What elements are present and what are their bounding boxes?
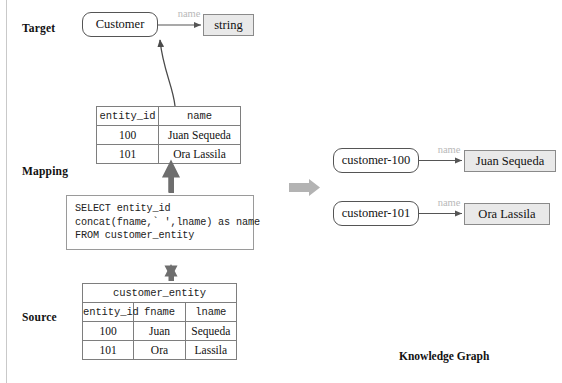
source-cell-lname: Sequeda [185, 322, 236, 341]
table-row: 101 Ora Lassila [97, 145, 241, 164]
sql-to-mapping-arrow [165, 163, 178, 193]
sql-line: concat(fname,` ',lname) as name [75, 216, 245, 230]
transform-block-arrow [289, 179, 320, 196]
left-margin-rule [6, 0, 7, 383]
mapping-cell-entity-id: 100 [97, 126, 159, 145]
source-table: customer_entity entity_id fname lname 10… [82, 283, 237, 360]
source-table-title: customer_entity [83, 284, 237, 303]
mapping-to-target-curve [160, 40, 175, 106]
source-header-fname: fname [134, 303, 185, 322]
mapping-header-name: name [159, 107, 241, 126]
table-row: 100 Juan Sequeda [83, 322, 237, 341]
kg-caption: Knowledge Graph [399, 350, 489, 362]
source-cell-entity-id: 100 [83, 322, 134, 341]
kg-subject-node-1[interactable]: customer-100 [333, 148, 419, 173]
section-label-mapping: Mapping [22, 165, 68, 177]
target-class-node[interactable]: Customer [82, 12, 158, 37]
mapping-cell-name: Ora Lassila [159, 145, 241, 164]
sql-mapping-box[interactable]: SELECT entity_id concat(fname,` ',lname)… [66, 195, 254, 250]
source-cell-entity-id: 101 [83, 341, 134, 360]
section-label-target: Target [22, 22, 55, 34]
sql-line: FROM customer_entity [75, 229, 245, 243]
source-cell-lname: Lassila [185, 341, 236, 360]
table-header-row: entity_id name [97, 107, 241, 126]
table-row: 100 Juan Sequeda [97, 126, 241, 145]
source-to-sql-arrow [165, 264, 178, 281]
table-header-row: entity_id fname lname [83, 303, 237, 322]
mapping-result-table: entity_id name 100 Juan Sequeda 101 Ora … [96, 106, 241, 164]
sql-line: SELECT entity_id [75, 202, 245, 216]
source-cell-fname: Ora [134, 341, 185, 360]
table-title-row: customer_entity [83, 284, 237, 303]
kg-object-node-2[interactable]: Ora Lassila [464, 203, 550, 225]
table-row: 101 Ora Lassila [83, 341, 237, 360]
source-header-lname: lname [185, 303, 236, 322]
mapping-cell-entity-id: 101 [97, 145, 159, 164]
kg-subject-node-2[interactable]: customer-101 [333, 201, 419, 226]
mapping-cell-name: Juan Sequeda [159, 126, 241, 145]
mapping-header-entity-id: entity_id [97, 107, 159, 126]
kg-object-node-1[interactable]: Juan Sequeda [464, 150, 556, 172]
source-header-entity-id: entity_id [83, 303, 134, 322]
target-datatype-node[interactable]: string [203, 14, 254, 36]
source-cell-fname: Juan [134, 322, 185, 341]
section-label-source: Source [22, 311, 57, 323]
diagram-canvas: Target Mapping Source Customer name stri… [0, 0, 562, 383]
